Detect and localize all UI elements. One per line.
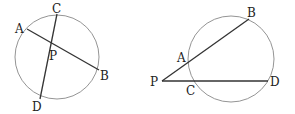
- circle-2: [188, 16, 274, 102]
- figure-secants: B A P C D: [150, 6, 280, 102]
- label-d: D: [32, 100, 42, 114]
- label-a: A: [176, 51, 186, 65]
- label-c: C: [52, 2, 61, 16]
- label-b: B: [247, 6, 256, 20]
- label-p: P: [150, 75, 158, 89]
- label-a: A: [14, 22, 24, 36]
- label-b: B: [100, 69, 109, 83]
- label-c: C: [186, 84, 195, 98]
- geometry-diagram: A C P B D B A P C D: [0, 0, 295, 114]
- label-d: D: [270, 75, 280, 89]
- figure-chords: A C P B D: [14, 2, 109, 114]
- label-p: P: [49, 49, 57, 63]
- chord-ab: [27, 29, 99, 70]
- secant-pab: [162, 19, 249, 81]
